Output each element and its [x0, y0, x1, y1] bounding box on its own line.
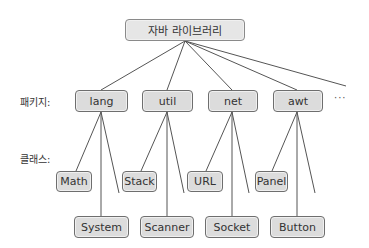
class-node-url: URL [187, 171, 223, 192]
class-node-system: System [74, 216, 129, 238]
class-node-panel: Panel [255, 171, 288, 192]
class-node-scanner: Scanner [140, 216, 194, 238]
class-node-stack: Stack [122, 171, 157, 192]
package-node-util: util [142, 90, 193, 112]
class-label: Button [279, 221, 316, 234]
class-label: Socket [214, 221, 251, 234]
row-label-packages: 패키지: [20, 94, 50, 109]
package-label: util [159, 95, 176, 108]
package-label: lang [90, 95, 114, 108]
package-label: awt [288, 95, 308, 108]
more-packages-ellipsis: ··· [334, 92, 347, 103]
row-label-classes: 클래스: [20, 151, 50, 166]
class-label: Panel [257, 175, 287, 188]
class-node-button: Button [270, 216, 325, 238]
package-node-awt: awt [273, 90, 323, 112]
class-label: Scanner [144, 221, 189, 234]
class-node-math: Math [56, 171, 92, 192]
class-label: Stack [124, 175, 154, 188]
class-label: Math [60, 175, 88, 188]
class-label: URL [194, 175, 216, 188]
class-node-socket: Socket [205, 216, 259, 238]
package-node-net: net [208, 90, 258, 112]
package-node-lang: lang [75, 90, 128, 112]
root-label: 자바 라이브러리 [148, 22, 222, 38]
class-label: System [81, 221, 122, 234]
root-node-java-library: 자바 라이브러리 [125, 19, 245, 41]
package-label: net [224, 95, 242, 108]
